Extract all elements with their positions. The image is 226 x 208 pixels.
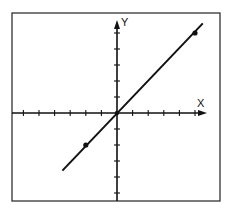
x-axis-label: X [197, 97, 205, 109]
origin-point [115, 111, 119, 115]
data-series [62, 23, 202, 170]
chart-frame [12, 13, 220, 201]
data-point [192, 30, 197, 35]
data-line [62, 23, 202, 170]
data-point [83, 142, 88, 147]
y-axis-label: Y [121, 16, 129, 28]
x-axis [12, 110, 207, 116]
line-chart: X Y [0, 0, 226, 208]
x-axis-arrow-icon [198, 110, 207, 116]
y-axis-arrow-icon [114, 20, 120, 29]
